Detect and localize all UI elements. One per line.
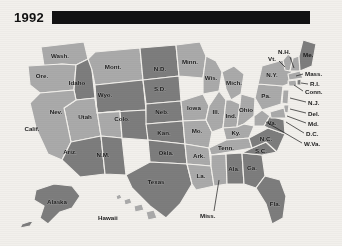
leader-NJ <box>290 98 306 102</box>
callout-DC: D.C. <box>306 130 319 137</box>
label-NY: N.Y. <box>266 71 278 78</box>
leader-MD <box>287 116 306 123</box>
label-ND: N.D. <box>154 65 167 72</box>
state-RI[interactable] <box>297 79 301 85</box>
label-AL: Ala. <box>228 165 240 172</box>
label-WY: Wyo. <box>98 91 113 98</box>
state-ND[interactable] <box>140 45 179 80</box>
label-IA: Iowa <box>187 104 201 111</box>
label-NV: Nev. <box>50 108 63 115</box>
label-OR: Ore. <box>36 72 49 79</box>
label-OH: Ohio <box>239 106 253 113</box>
callout-WV: W.Va. <box>304 140 320 147</box>
us-map-figure: 1992 <box>0 0 342 246</box>
callout-NJ: N.J. <box>308 99 320 106</box>
callout-ME: Me. <box>303 51 314 58</box>
label-GA: Ga. <box>247 164 257 171</box>
callout-CT: Conn. <box>305 88 323 95</box>
callout-MA: Mass. <box>305 70 322 77</box>
callout-NH: N.H. <box>278 48 291 55</box>
label-SC: S.C. <box>255 147 267 154</box>
callout-DE: Del. <box>308 110 320 117</box>
callout-HI: Hawaii <box>98 214 118 221</box>
label-ID: Idaho <box>69 79 86 86</box>
label-IN: Ind. <box>226 112 237 119</box>
leader-RI <box>301 83 308 84</box>
state-MD[interactable] <box>270 108 286 118</box>
label-MO: Mo. <box>192 127 203 134</box>
label-KY: Ky. <box>231 129 240 136</box>
title-banner <box>52 11 310 24</box>
label-TX: Texas <box>147 178 165 185</box>
label-KS: Kan. <box>157 129 171 136</box>
leader-DC <box>286 122 304 133</box>
label-PA: Pa. <box>261 92 271 99</box>
label-CA: Calif. <box>24 125 39 132</box>
label-CO: Colo. <box>114 115 130 122</box>
year-label: 1992 <box>14 9 44 26</box>
callout-VT: Vt. <box>268 55 276 62</box>
label-WI: Wis. <box>205 74 218 81</box>
label-SD: S.D. <box>154 85 166 92</box>
label-NM: N.M. <box>96 151 109 158</box>
label-UT: Utah <box>78 113 92 120</box>
label-TN: Tenn. <box>218 144 234 151</box>
label-MT: Mont. <box>105 63 122 70</box>
figure-header: 1992 <box>14 9 310 26</box>
united-states-map: Wash. Ore. Idaho Mont. Wyo. Nev. Utah Ca… <box>0 28 342 246</box>
label-MN: Minn. <box>182 58 198 65</box>
label-MI: Mich. <box>226 79 242 86</box>
callout-MS: Miss. <box>200 212 216 219</box>
label-LA: La. <box>197 172 206 179</box>
label-FL: Fla. <box>270 200 281 207</box>
state-AK-aleutians[interactable] <box>20 220 34 228</box>
state-CT[interactable] <box>288 80 297 86</box>
leader-DE <box>290 109 306 113</box>
leader-CT <box>294 85 303 91</box>
label-WA: Wash. <box>51 52 69 59</box>
state-NJ[interactable] <box>282 90 289 104</box>
callout-MD: Md. <box>308 120 319 127</box>
label-NE: Neb. <box>155 108 169 115</box>
label-NC: N.C. <box>260 135 273 142</box>
label-AR: Ark. <box>193 152 205 159</box>
callout-RI: R.I. <box>310 80 320 87</box>
label-AZ: Ariz. <box>63 148 77 155</box>
label-AK: Alaska <box>47 198 68 205</box>
label-IL: Ill. <box>213 108 220 115</box>
label-VA: Va. <box>268 119 277 126</box>
label-OK: Okla. <box>158 149 173 156</box>
